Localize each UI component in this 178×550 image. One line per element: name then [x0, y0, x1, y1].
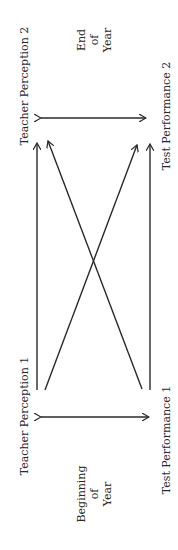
- label-end-of-year: End of Year: [75, 28, 114, 53]
- of-word: of: [88, 28, 101, 53]
- label-beginning-of-year: Beginning of Year: [75, 466, 114, 523]
- label-teacher-perception-2: Teacher Perception 2: [18, 27, 31, 146]
- year-word: Year: [101, 28, 114, 53]
- beginning-word: Beginning: [75, 466, 88, 523]
- label-teacher-perception-1: Teacher Perception 1: [18, 357, 31, 476]
- end-word: End: [75, 28, 88, 53]
- label-test-performance-1: Test Performance 1: [160, 386, 173, 494]
- arrow-teacher1-to-test2: [45, 145, 137, 390]
- arrow-test1-to-teacher2: [48, 141, 142, 389]
- year-word: Year: [101, 466, 114, 523]
- label-test-performance-2: Test Performance 2: [160, 62, 173, 170]
- of-word: of: [88, 466, 101, 523]
